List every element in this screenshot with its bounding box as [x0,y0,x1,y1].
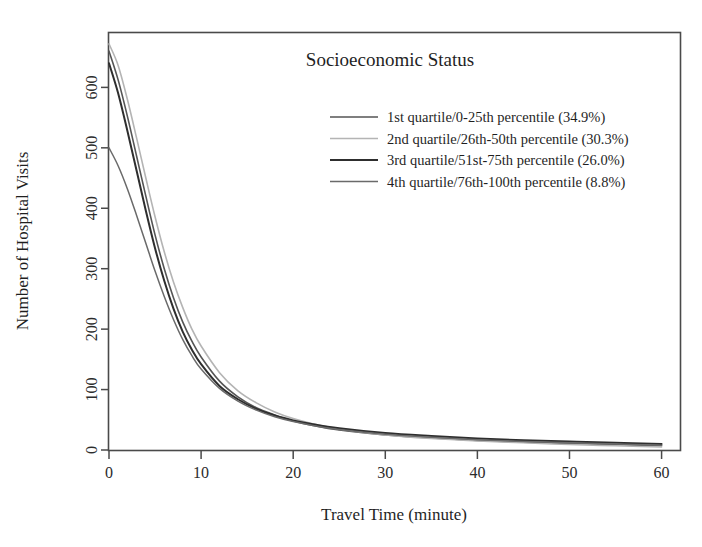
y-tick-label: 400 [83,196,100,220]
x-axis-ticks: 0102030405060 [105,450,670,481]
chart-canvas: 0100200300400500600 0102030405060 Travel… [0,0,702,547]
y-tick-label: 300 [83,257,100,281]
x-tick-label: 30 [377,464,393,481]
y-axis-ticks: 0100200300400500600 [83,75,109,454]
y-tick-label: 600 [83,75,100,99]
chart-title: Socioeconomic Status [306,49,474,70]
x-tick-label: 10 [193,464,209,481]
legend-label-3: 3rd quartile/51st-75th percentile (26.0%… [387,152,625,169]
y-tick-label: 0 [83,446,100,454]
series-lines [109,44,662,447]
legend-label-4: 4th quartile/76th-100th percentile (8.8%… [387,174,626,191]
legend-label-1: 1st quartile/0-25th percentile (34.9%) [387,109,605,126]
y-axis-title: Number of Hospital Visits [13,152,32,331]
x-tick-label: 40 [469,464,485,481]
chart-figure: 0100200300400500600 0102030405060 Travel… [0,0,702,547]
legend-label-2: 2nd quartile/26th-50th percentile (30.3%… [387,131,629,148]
x-axis-title: Travel Time (minute) [321,505,467,524]
x-tick-label: 60 [654,464,670,481]
chart-legend: 1st quartile/0-25th percentile (34.9%)2n… [330,109,629,191]
x-tick-label: 20 [285,464,301,481]
y-tick-label: 100 [83,378,100,402]
plot-area-border [109,33,681,451]
series-line-2 [109,44,662,447]
y-tick-label: 200 [83,317,100,341]
x-tick-label: 50 [561,464,577,481]
series-line-4 [109,148,662,445]
x-tick-label: 0 [105,464,113,481]
y-tick-label: 500 [83,136,100,160]
